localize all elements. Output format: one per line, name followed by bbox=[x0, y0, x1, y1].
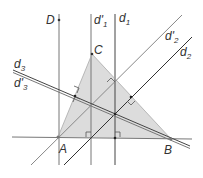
label-b: B bbox=[164, 143, 172, 157]
point-b bbox=[170, 138, 173, 141]
label-d-2: d2 bbox=[180, 45, 192, 61]
diagram-canvas: D C A B d'1 d1 d'2 d2 d3 d'3 bbox=[0, 0, 203, 178]
intersection-point bbox=[114, 137, 117, 140]
point-c bbox=[91, 53, 94, 56]
intersection-point bbox=[114, 113, 117, 116]
geometry-diagram: D C A B d'1 d1 d'2 d2 d3 d'3 bbox=[0, 0, 203, 178]
point-a bbox=[57, 136, 60, 139]
label-d-prime-2: d'2 bbox=[165, 29, 179, 45]
label-d-prime-1: d'1 bbox=[94, 13, 107, 29]
point-d bbox=[58, 19, 61, 22]
label-d: D bbox=[46, 13, 55, 27]
label-d-3: d3 bbox=[14, 57, 26, 73]
intersection-point bbox=[130, 96, 133, 99]
intersection-point bbox=[74, 95, 77, 98]
label-a: A bbox=[58, 142, 67, 156]
label-d-1: d1 bbox=[119, 11, 130, 27]
label-c: C bbox=[94, 43, 103, 57]
